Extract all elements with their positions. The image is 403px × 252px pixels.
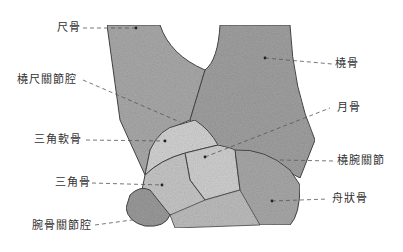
label-ulna: 尺骨	[57, 22, 81, 34]
label-scaphoid: 舟狀骨	[332, 193, 368, 205]
label-lunate: 月骨	[337, 102, 361, 114]
wrist-anatomy-figure	[0, 0, 403, 252]
label-triquetrum: 三角骨	[55, 177, 91, 189]
label-radioulnar-joint-cavity: 橈尺關節腔	[17, 74, 77, 86]
label-carpal-joint-cavity: 腕骨關節腔	[32, 220, 92, 232]
label-radiocarpal-joint: 橈腕關節	[337, 155, 385, 167]
label-triangular-cartilage: 三角軟骨	[34, 134, 82, 146]
label-radius: 橈骨	[335, 58, 359, 70]
